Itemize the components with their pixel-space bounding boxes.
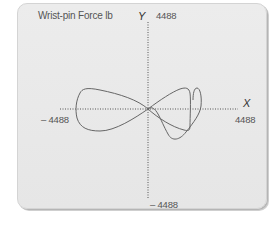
plot-area [0, 0, 271, 226]
force-trace-curve [76, 88, 201, 139]
